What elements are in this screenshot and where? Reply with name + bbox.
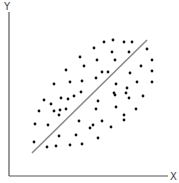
data-point (67, 98, 70, 101)
data-point (97, 100, 100, 103)
data-point (33, 141, 36, 144)
data-point (128, 51, 131, 54)
data-point (47, 124, 50, 127)
data-point (142, 95, 145, 98)
data-point (125, 92, 128, 95)
data-point (140, 65, 143, 68)
data-point (55, 145, 58, 148)
data-point (95, 77, 98, 80)
data-point (58, 135, 61, 138)
data-point (43, 99, 46, 102)
data-point (59, 109, 62, 112)
data-point (34, 123, 37, 126)
trend-line (32, 40, 147, 153)
data-point (128, 97, 131, 100)
data-point (115, 106, 118, 109)
data-point (103, 41, 106, 44)
data-point (65, 69, 68, 72)
data-point (112, 39, 115, 42)
data-point (53, 110, 56, 113)
data-point (81, 80, 84, 83)
data-point (73, 95, 76, 98)
data-point (46, 146, 49, 149)
data-point (38, 110, 41, 113)
data-point (50, 103, 53, 106)
data-point (151, 81, 154, 84)
data-point (123, 41, 126, 44)
x-axis-label: X (170, 171, 177, 182)
y-axis-label: Y (3, 1, 11, 12)
data-point (92, 124, 95, 127)
data-point (80, 91, 83, 94)
data-point (126, 87, 129, 90)
data-point (53, 83, 56, 86)
data-point (83, 65, 86, 68)
data-point (101, 71, 104, 74)
data-point (79, 56, 82, 59)
data-point (146, 48, 149, 51)
scatter-chart: Y X (0, 0, 179, 183)
data-point (136, 81, 139, 84)
data-point (58, 114, 61, 117)
data-point (151, 70, 154, 73)
data-point (114, 59, 117, 62)
data-point (60, 97, 63, 100)
data-point (81, 143, 84, 146)
data-point (151, 59, 154, 62)
data-point (110, 126, 113, 129)
data-point (65, 108, 68, 111)
data-point (69, 144, 72, 147)
data-point (95, 108, 98, 111)
data-point (75, 134, 78, 137)
data-point (97, 137, 100, 140)
data-point (135, 108, 138, 111)
data-point (123, 119, 126, 122)
data-point (115, 83, 118, 86)
data-point (78, 120, 81, 123)
data-point (89, 127, 92, 130)
data-point (111, 51, 114, 54)
data-point (131, 41, 134, 44)
data-point (93, 47, 96, 50)
data-point (113, 92, 116, 95)
data-point (129, 72, 132, 75)
data-point (96, 59, 99, 62)
data-point (101, 120, 104, 123)
data-point (107, 71, 110, 74)
data-point (123, 114, 126, 117)
data-point (69, 81, 72, 84)
